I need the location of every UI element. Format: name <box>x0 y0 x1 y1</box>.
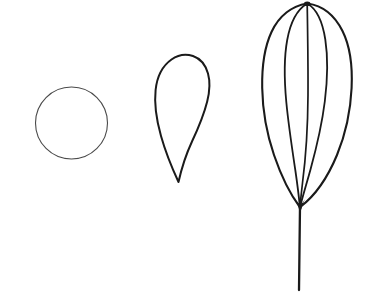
figure-root: Three-stage outline line drawing <box>0 0 387 305</box>
bud-top-apex-node <box>304 2 310 7</box>
bud-stem <box>299 206 300 290</box>
line-drawing-canvas <box>0 0 387 305</box>
canvas-background <box>0 0 387 305</box>
